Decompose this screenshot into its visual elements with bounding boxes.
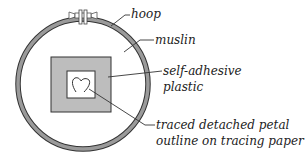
label-tracing-2: outline on tracing paper <box>156 134 304 148</box>
label-plastic-2: plastic <box>163 80 203 94</box>
hoop-leader <box>111 15 125 26</box>
label-hoop: hoop <box>131 7 161 21</box>
tracing-paper <box>67 71 95 98</box>
label-tracing-1: traced detached petal <box>156 118 289 132</box>
label-plastic-1: self-adhesive <box>163 64 242 78</box>
label-muslin: muslin <box>155 33 196 47</box>
